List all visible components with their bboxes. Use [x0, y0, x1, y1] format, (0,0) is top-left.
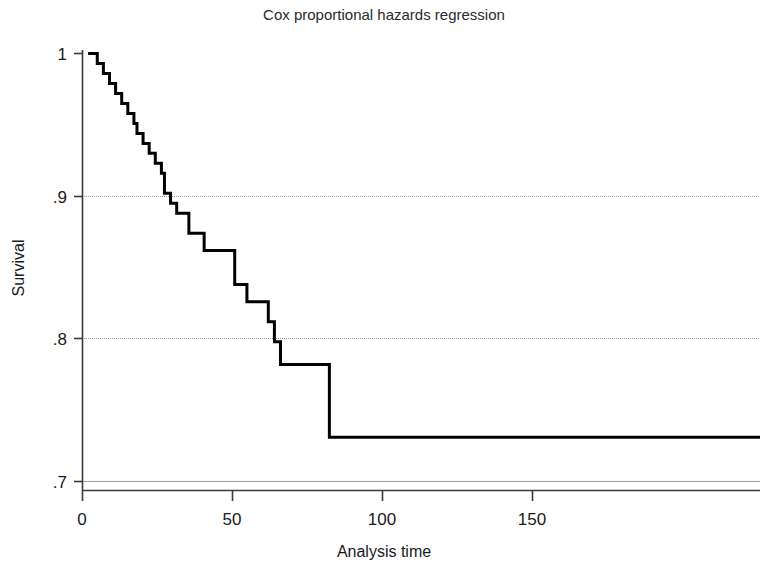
y-tick-label-0-9: .9 — [53, 188, 67, 207]
chart-title: Cox proportional hazards regression — [263, 6, 505, 23]
x-tick-label-150: 150 — [518, 510, 546, 529]
y-tick-label-0-7: .7 — [53, 473, 67, 492]
x-tick-label-100: 100 — [368, 510, 396, 529]
survival-plot: Cox proportional hazards regression 1 .9… — [0, 0, 768, 569]
y-tick-label-1: 1 — [58, 45, 67, 64]
y-tick-label-0-8: .8 — [53, 330, 67, 349]
x-tick-label-50: 50 — [223, 510, 242, 529]
chart-figure: Cox proportional hazards regression 1 .9… — [0, 0, 768, 569]
x-axis-title: Analysis time — [337, 543, 431, 560]
y-axis-title: Survival — [10, 240, 27, 297]
x-tick-label-0: 0 — [77, 510, 86, 529]
